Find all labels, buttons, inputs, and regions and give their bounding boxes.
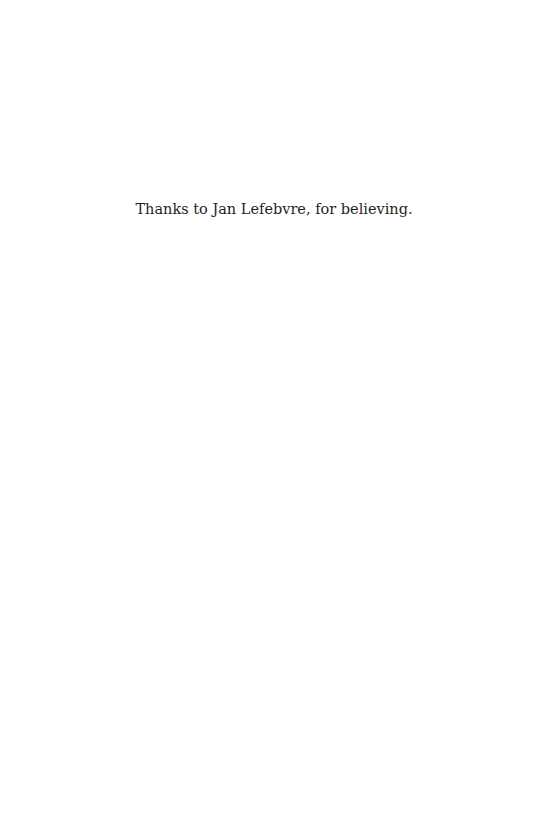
dedication-text: Thanks to Jan Lefebvre, for believing. (0, 200, 548, 218)
book-page: Thanks to Jan Lefebvre, for believing. (0, 0, 548, 835)
